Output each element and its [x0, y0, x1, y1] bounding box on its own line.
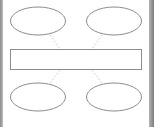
node-top-right-ellipse[interactable] — [87, 7, 142, 35]
node-bottom-left-ellipse[interactable] — [11, 83, 66, 111]
node-top-left-ellipse[interactable] — [11, 7, 66, 35]
connector-bottom-left — [50, 70, 60, 83]
diagram-svg — [0, 0, 154, 127]
node-bottom-right-ellipse[interactable] — [87, 83, 142, 111]
diagram-canvas — [0, 0, 154, 127]
connector-top-left — [50, 35, 60, 49]
node-center-rectangle[interactable] — [11, 50, 142, 70]
connector-top-right — [92, 35, 102, 49]
connector-bottom-right — [92, 70, 102, 83]
